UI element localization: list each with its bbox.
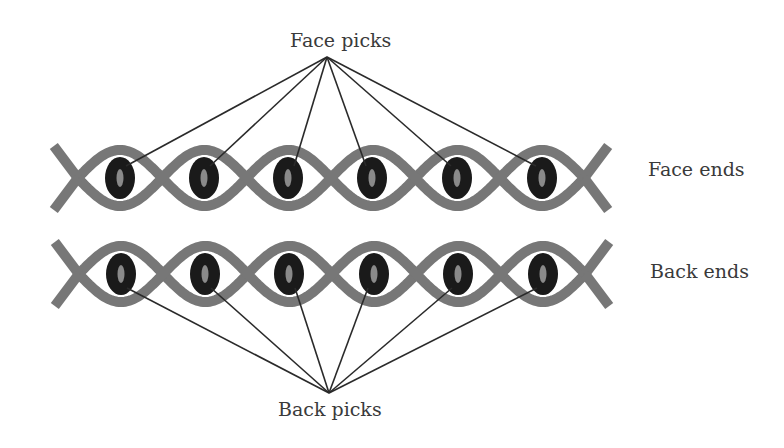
pick-inner-slot [540, 265, 547, 283]
pick-cross-section [357, 157, 387, 199]
pick-inner-slot [117, 169, 124, 187]
pick-inner-slot [202, 265, 209, 283]
pick-cross-section [189, 157, 219, 199]
back-picks-leader-lines [127, 288, 537, 393]
back-ends-row [55, 242, 609, 306]
pick-inner-slot [285, 169, 292, 187]
pick-cross-section [106, 253, 136, 295]
strand-end-tail [585, 242, 609, 274]
pick-inner-slot [201, 169, 208, 187]
face-ends-label: Face ends [648, 160, 745, 179]
pick-inner-slot [539, 169, 546, 187]
strand-end-tail [584, 146, 608, 178]
strand-end-tail [585, 274, 609, 306]
strand-end-tail [54, 146, 78, 178]
pick-cross-section [443, 253, 473, 295]
pick-cross-section [359, 253, 389, 295]
pick-cross-section [273, 157, 303, 199]
face-picks-label: Face picks [290, 31, 391, 50]
pick-inner-slot [286, 265, 293, 283]
pick-cross-section [442, 157, 472, 199]
strand-end-tail [584, 178, 608, 210]
pick-inner-slot [454, 169, 461, 187]
pick-inner-slot [455, 265, 462, 283]
pick-inner-slot [118, 265, 125, 283]
weave-diagram [0, 0, 784, 448]
face-ends-row [54, 146, 608, 210]
pick-inner-slot [369, 169, 376, 187]
pick-cross-section [190, 253, 220, 295]
pick-cross-section [274, 253, 304, 295]
back-ends-label: Back ends [650, 262, 749, 281]
back-picks-label: Back picks [278, 400, 382, 419]
strand-end-tail [55, 242, 79, 274]
end-strand-lower [79, 246, 585, 302]
strand-end-tail [54, 178, 78, 210]
pick-inner-slot [371, 265, 378, 283]
end-strand-lower [78, 150, 584, 206]
strand-end-tail [55, 274, 79, 306]
pick-cross-section [528, 253, 558, 295]
